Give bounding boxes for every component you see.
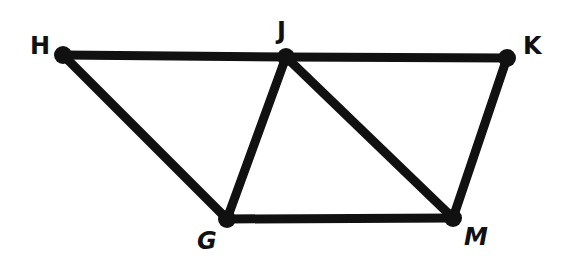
segments — [63, 55, 507, 219]
segment-jm — [286, 57, 453, 218]
vertex-g — [218, 210, 236, 228]
label-j: J — [277, 19, 286, 43]
vertex-h — [54, 46, 72, 64]
segment-jk — [286, 57, 507, 58]
vertices — [54, 46, 516, 228]
vertex-j — [277, 48, 295, 66]
label-g: G — [197, 229, 217, 253]
segment-km — [453, 58, 507, 218]
label-m: M — [464, 225, 488, 249]
segment-hg — [63, 55, 227, 219]
vertex-m — [444, 209, 462, 227]
segment-gj — [227, 57, 286, 219]
vertex-k — [498, 49, 516, 67]
label-k: K — [523, 34, 542, 58]
label-h: H — [30, 34, 50, 58]
segment-gm — [227, 218, 453, 219]
segment-hj — [63, 55, 286, 57]
